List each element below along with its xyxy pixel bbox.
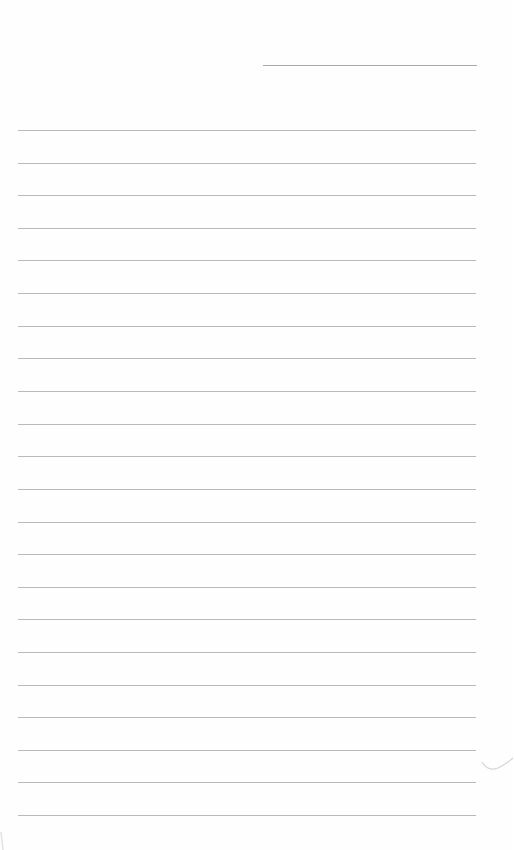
ruled-line <box>18 358 476 359</box>
ruled-line <box>18 195 476 196</box>
ruled-line <box>18 456 476 457</box>
ruled-line <box>18 717 476 718</box>
ruled-line <box>18 260 476 261</box>
ruled-line <box>18 293 476 294</box>
ruled-line <box>18 522 476 523</box>
ruled-line <box>18 587 476 588</box>
ruled-line <box>18 685 476 686</box>
ruled-line <box>18 554 476 555</box>
ruled-line <box>18 815 476 816</box>
edge-mark-icon <box>0 832 6 850</box>
ruled-line <box>18 163 476 164</box>
ruled-line <box>18 130 476 131</box>
ruled-line <box>18 228 476 229</box>
ruled-line <box>18 489 476 490</box>
ruled-line <box>18 652 476 653</box>
ruled-line <box>18 424 476 425</box>
ruled-line <box>18 750 476 751</box>
ruled-line <box>18 391 476 392</box>
header-line <box>263 65 477 66</box>
ruled-line <box>18 326 476 327</box>
pen-mark-icon <box>478 748 514 778</box>
ruled-line <box>18 619 476 620</box>
ruled-line <box>18 782 476 783</box>
